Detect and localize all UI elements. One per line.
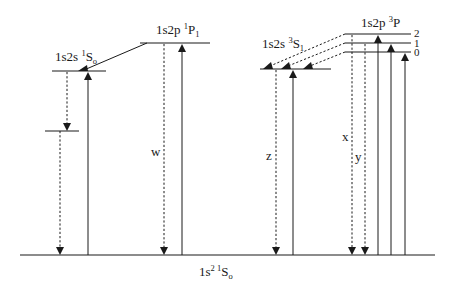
arrowhead: [374, 35, 382, 43]
arrowhead: [361, 247, 369, 255]
j-label-0: 0: [414, 46, 420, 58]
arrowhead: [160, 247, 168, 255]
label-x: x: [342, 129, 349, 144]
arrowhead: [84, 72, 92, 80]
arrowhead: [56, 247, 64, 255]
arrowhead: [303, 62, 313, 69]
ground-state-label: 1s2 1So: [199, 263, 233, 281]
label-1s2p-1P1: 1s2p 1P1: [156, 21, 200, 39]
arrowhead: [272, 247, 280, 255]
arrowhead: [401, 53, 409, 61]
label-y: y: [355, 149, 362, 164]
arrowhead: [263, 62, 273, 69]
arrowhead: [281, 62, 291, 69]
arrowhead: [348, 247, 356, 255]
label-1s2p-3P: 1s2p 3P: [361, 14, 400, 30]
energy-level-diagram: 1s2 1So 1s2s 1So 1s2p 1P1 w 1s2s 3S1 1s2…: [0, 0, 450, 291]
decay-3P0-to-3S1: [310, 52, 345, 66]
arrowhead: [387, 44, 395, 52]
arrowhead: [78, 65, 88, 71]
arrowhead: [63, 123, 71, 131]
label-z: z: [266, 148, 272, 163]
arrowhead: [178, 44, 186, 52]
label-1s2s-3S1: 1s2s 3S1: [262, 35, 304, 53]
arrowhead: [289, 70, 297, 78]
label-1s2s-1S0: 1s2s 1So: [55, 48, 97, 66]
label-w: w: [151, 144, 161, 159]
